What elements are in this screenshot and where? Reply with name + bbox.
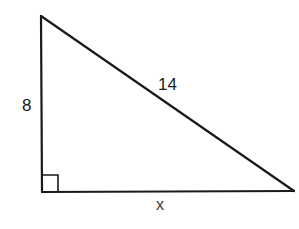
vertical-leg bbox=[41, 16, 42, 192]
hypotenuse-label: 14 bbox=[158, 75, 177, 94]
horizontal-leg bbox=[42, 191, 294, 192]
horizontal-leg-label: x bbox=[156, 196, 164, 213]
right-angle-marker bbox=[42, 175, 58, 192]
right-triangle-diagram: 8 14 x bbox=[0, 0, 299, 229]
hypotenuse bbox=[41, 16, 294, 191]
vertical-leg-label: 8 bbox=[22, 96, 31, 115]
